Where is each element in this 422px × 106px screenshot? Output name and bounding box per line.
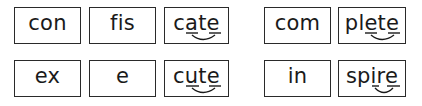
vowel-e-link-icon [345, 13, 403, 43]
syllable-card-fis: fis [89, 7, 156, 44]
syllable-text: in [288, 66, 308, 87]
syllable-text: con [28, 13, 66, 34]
vowel-e-link-icon [346, 66, 404, 96]
marked-syllable: plete [345, 13, 399, 34]
syllable-text: e [116, 66, 129, 87]
syllable-card-com: com [264, 7, 331, 44]
syllable-card-spire: spire [338, 60, 406, 97]
syllable-card-cate: cate [164, 7, 229, 44]
syllable-card-in: in [264, 60, 331, 97]
syllable-text: ex [35, 66, 60, 87]
vowel-e-link-icon [173, 13, 223, 43]
syllable-card-cute: cute [164, 60, 229, 97]
syllable-card-plete: plete [338, 7, 406, 44]
syllable-card-ex: ex [14, 60, 81, 97]
marked-syllable: cute [173, 66, 220, 87]
syllable-card-e: e [89, 60, 156, 97]
marked-syllable: spire [346, 66, 398, 87]
vowel-e-link-icon [173, 66, 223, 96]
syllable-text: com [275, 13, 320, 34]
syllable-card-con: con [14, 7, 81, 44]
marked-syllable: cate [173, 13, 219, 34]
syllable-text: fis [110, 13, 135, 34]
